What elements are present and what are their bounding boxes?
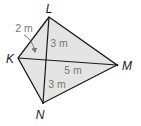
kite-diagram: L K M N 2 m 3 m 5 m 3 m (0, 0, 141, 126)
measure-label-3m-top: 3 m (50, 37, 68, 49)
measure-label-2m: 2 m (15, 22, 33, 34)
vertex-label-K: K (6, 52, 15, 66)
vertex-point-N (42, 102, 44, 104)
measure-label-3m-bottom: 3 m (48, 78, 66, 90)
vertex-label-M: M (122, 59, 132, 73)
measure-label-5m: 5 m (64, 64, 82, 76)
vertex-point-M (116, 64, 119, 67)
vertex-label-L: L (46, 2, 53, 16)
vertex-label-N: N (36, 108, 45, 122)
kite-shape (18, 17, 117, 103)
